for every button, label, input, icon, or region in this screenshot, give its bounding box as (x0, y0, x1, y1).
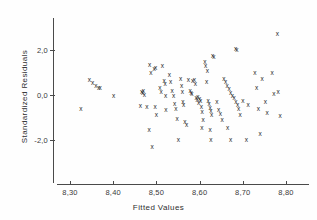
data-point-marker: x (271, 69, 274, 76)
data-point-marker: x (155, 112, 158, 119)
data-point-marker: x (257, 105, 260, 112)
data-point-marker: x (276, 31, 279, 38)
data-points-layer: xxxxxxxxxxxxxxxxxxxxxxxxxxxxxxxxxxxxxxxx… (0, 0, 317, 220)
data-point-marker: x (148, 61, 151, 68)
data-point-marker: x (163, 81, 166, 88)
data-point-marker: x (145, 104, 148, 111)
data-point-marker: x (265, 109, 268, 116)
data-point-marker: x (161, 63, 164, 70)
data-point-marker: x (239, 112, 242, 119)
data-point-marker: x (169, 79, 172, 86)
data-point-marker: x (278, 113, 281, 120)
data-point-marker: x (258, 130, 261, 137)
data-point-marker: x (79, 105, 82, 112)
data-point-marker: x (160, 88, 163, 95)
data-point-marker: x (177, 136, 180, 143)
data-point-marker: x (206, 68, 209, 75)
data-point-marker: x (154, 64, 157, 71)
data-point-marker: x (235, 46, 238, 53)
data-point-marker: x (194, 81, 197, 88)
data-point-marker: x (175, 115, 178, 122)
data-point-marker: x (174, 106, 177, 113)
data-point-marker: x (209, 137, 212, 144)
data-point-marker: x (139, 102, 142, 109)
data-point-marker: x (229, 136, 232, 143)
data-point-marker: x (245, 137, 248, 144)
data-point-marker: x (150, 144, 153, 151)
data-point-marker: x (99, 85, 102, 92)
data-point-marker: x (212, 54, 215, 61)
data-point-marker: x (241, 98, 244, 105)
data-point-marker: x (143, 91, 146, 98)
data-point-marker: x (208, 127, 211, 134)
data-point-marker: x (182, 102, 185, 109)
data-point-marker: x (172, 93, 175, 100)
data-point-marker: x (164, 107, 167, 114)
data-point-marker: x (215, 99, 218, 106)
data-point-marker: x (220, 117, 223, 124)
data-point-marker: x (153, 104, 156, 111)
data-point-marker: x (253, 69, 256, 76)
data-point-marker: x (264, 99, 267, 106)
data-point-marker: x (164, 92, 167, 99)
data-point-marker: x (246, 101, 249, 108)
data-point-marker: x (272, 91, 275, 98)
data-point-marker: x (185, 121, 188, 128)
data-point-marker: x (277, 88, 280, 95)
data-point-marker: x (255, 85, 258, 92)
data-point-marker: x (181, 89, 184, 96)
x-axis-title: Fitted Values (0, 203, 317, 212)
data-point-marker: x (190, 91, 193, 98)
data-point-marker: x (210, 112, 213, 119)
data-point-marker: x (201, 109, 204, 116)
data-point-marker: x (112, 93, 115, 100)
data-point-marker: x (147, 127, 150, 134)
data-point-marker: x (205, 79, 208, 86)
data-point-marker: x (200, 125, 203, 132)
data-point-marker: x (226, 124, 229, 131)
y-axis-title: Standardized Residuals (20, 27, 29, 167)
scatter-plot-figure: 8,308,408,508,608,708,80 2,00,0-2,0 xxxx… (0, 0, 317, 220)
data-point-marker: x (261, 76, 264, 83)
data-point-marker: x (187, 77, 190, 84)
data-point-marker: x (201, 117, 204, 124)
